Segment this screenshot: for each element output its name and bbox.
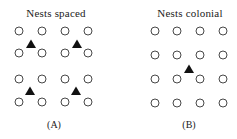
nest-circle-icon xyxy=(15,98,23,106)
nest-circle-icon xyxy=(173,27,181,35)
nest-circle-icon xyxy=(151,27,159,35)
nest-circle-icon xyxy=(196,99,204,107)
nest-circle-icon xyxy=(38,27,46,35)
nest-circle-icon xyxy=(151,75,159,83)
nest-circle-icon xyxy=(196,75,204,83)
nest-circle-icon xyxy=(61,98,69,106)
nest-circle-icon xyxy=(84,27,92,35)
nest-circle-icon xyxy=(15,75,23,83)
nest-circle-icon xyxy=(196,51,204,59)
triangle-marker-icon xyxy=(25,87,35,96)
nest-circle-icon xyxy=(38,49,46,57)
nest-circle-icon xyxy=(15,27,23,35)
nest-diagram xyxy=(0,0,237,139)
nest-circle-icon xyxy=(38,75,46,83)
triangle-marker-icon xyxy=(71,87,81,96)
nest-circle-icon xyxy=(151,51,159,59)
nest-circle-icon xyxy=(219,51,227,59)
nest-circle-icon xyxy=(219,99,227,107)
nest-circle-icon xyxy=(173,99,181,107)
triangle-marker-icon xyxy=(184,65,194,74)
triangle-marker-icon xyxy=(26,40,36,49)
nest-circle-icon xyxy=(219,27,227,35)
nest-circle-icon xyxy=(173,51,181,59)
nest-circle-icon xyxy=(15,49,23,57)
nest-circle-icon xyxy=(61,75,69,83)
triangle-marker-icon xyxy=(72,40,82,49)
nest-circle-icon xyxy=(196,27,204,35)
nest-circle-icon xyxy=(61,27,69,35)
nest-circle-icon xyxy=(61,49,69,57)
nest-circle-icon xyxy=(151,99,159,107)
nest-circle-icon xyxy=(84,98,92,106)
nest-circle-icon xyxy=(38,98,46,106)
nest-circle-icon xyxy=(84,49,92,57)
nest-circle-icon xyxy=(84,75,92,83)
nest-circle-icon xyxy=(173,75,181,83)
nest-circle-icon xyxy=(219,75,227,83)
